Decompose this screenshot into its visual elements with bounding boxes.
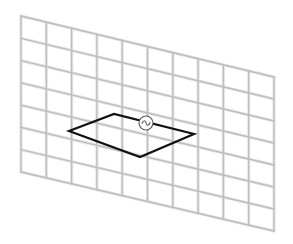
mesh-coil-diagram xyxy=(0,0,293,244)
ac-source-icon xyxy=(139,116,153,130)
